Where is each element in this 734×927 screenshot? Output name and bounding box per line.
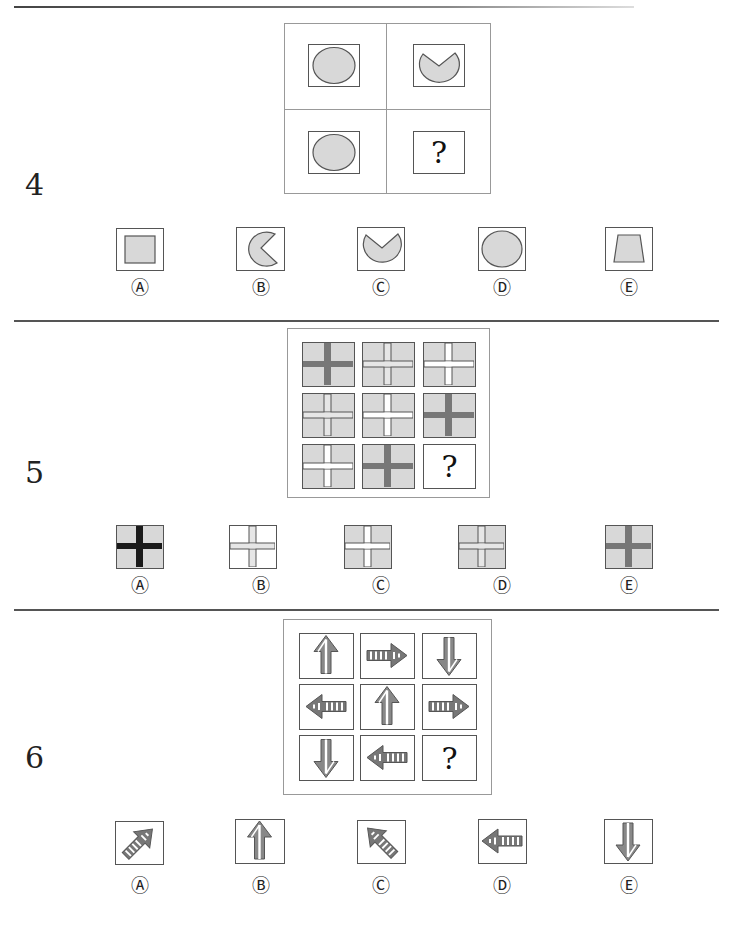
question-number: 5: [25, 455, 44, 490]
circle-icon: [309, 45, 359, 86]
option-label-e: Ⓔ: [617, 276, 641, 300]
circle-icon: [479, 228, 525, 270]
question-number: 6: [25, 740, 44, 775]
matrix-cell-arrow-right: [360, 633, 415, 679]
question-mark: ?: [414, 132, 464, 173]
matrix-cell-cross-light: [302, 393, 355, 438]
option-label-c: Ⓒ: [369, 276, 393, 300]
arrow-left-icon: [479, 820, 525, 862]
matrix-cell-cross-dark: [302, 342, 355, 387]
notched-circle-icon: [414, 45, 464, 86]
arrow-down-icon: [423, 634, 475, 677]
option-4a[interactable]: [116, 228, 164, 271]
option-4e[interactable]: [605, 227, 653, 271]
matrix-cell-arrow-left: [299, 684, 354, 730]
question-6-matrix: ?: [283, 619, 492, 795]
arrow-left-icon: [300, 685, 352, 728]
cross-icon: [424, 394, 474, 436]
notched-circle-icon: [358, 228, 404, 270]
circle-icon: [309, 132, 359, 173]
cross-icon: [363, 343, 413, 385]
option-6a[interactable]: [115, 821, 164, 865]
cross-icon: [363, 445, 413, 487]
section-divider-top: [14, 6, 634, 8]
cross-icon: [459, 526, 504, 567]
option-6b[interactable]: [235, 819, 285, 864]
matrix-cell-cross-white: [423, 342, 476, 387]
option-label-a: Ⓐ: [128, 574, 152, 598]
option-label-b: Ⓑ: [249, 574, 273, 598]
option-label-a: Ⓐ: [128, 874, 152, 898]
cross-icon: [303, 343, 353, 385]
option-4c[interactable]: [357, 227, 405, 271]
option-label-d: Ⓓ: [490, 874, 514, 898]
matrix-cell-missing: ?: [422, 735, 477, 781]
arrow-down-icon: [605, 820, 651, 862]
matrix-cell-circle: [308, 44, 360, 87]
matrix-cell-arrow-right: [422, 684, 477, 730]
arrow-down-icon: [300, 736, 352, 779]
option-6e[interactable]: [604, 819, 653, 864]
arrow-right-icon: [423, 685, 475, 728]
option-4b[interactable]: [236, 227, 285, 271]
option-label-a: Ⓐ: [128, 276, 152, 300]
arrow-up-icon: [361, 685, 413, 728]
option-5a[interactable]: [116, 525, 164, 569]
option-label-b: Ⓑ: [249, 276, 273, 300]
cross-icon: [117, 526, 162, 567]
option-label-d: Ⓓ: [490, 574, 514, 598]
option-4d[interactable]: [478, 227, 526, 271]
option-5c[interactable]: [344, 525, 392, 569]
question-mark: ?: [423, 736, 476, 780]
arrow-up-left-icon: [358, 821, 404, 862]
option-5d[interactable]: [458, 525, 506, 569]
question-5-matrix: ?: [287, 328, 490, 498]
option-label-e: Ⓔ: [617, 874, 641, 898]
option-6d[interactable]: [478, 819, 527, 864]
cross-icon: [303, 445, 353, 487]
cross-icon: [230, 526, 275, 567]
matrix-cell-arrow-up: [360, 684, 415, 730]
cross-icon: [424, 343, 474, 385]
arrow-up-right-icon: [116, 822, 162, 863]
cross-icon: [345, 526, 390, 567]
option-label-e: Ⓔ: [617, 574, 641, 598]
matrix-cell-arrow-left: [360, 735, 415, 781]
matrix-cell-notched-circle: [413, 44, 465, 87]
section-divider-4-5: [14, 320, 719, 322]
matrix-cell-missing: ?: [423, 444, 476, 489]
matrix-cell-circle: [308, 131, 360, 174]
matrix-cell-cross-dark: [423, 393, 476, 438]
matrix-cell-missing: ?: [413, 131, 465, 174]
option-6c[interactable]: [357, 820, 406, 864]
question-4-matrix: ?: [284, 23, 491, 194]
option-label-c: Ⓒ: [369, 574, 393, 598]
option-label-d: Ⓓ: [490, 276, 514, 300]
cross-icon: [303, 394, 353, 436]
square-icon: [117, 229, 163, 270]
matrix-cell-cross-light: [362, 342, 415, 387]
section-divider-5-6: [14, 609, 719, 611]
arrow-right-icon: [361, 634, 413, 677]
question-number: 4: [25, 167, 44, 202]
matrix-divider-h: [285, 109, 490, 110]
option-label-b: Ⓑ: [249, 874, 273, 898]
arrow-left-icon: [361, 736, 413, 779]
matrix-cell-cross-dark: [362, 444, 415, 489]
option-label-c: Ⓒ: [369, 874, 393, 898]
cross-icon: [606, 526, 651, 567]
matrix-cell-arrow-down: [422, 633, 477, 679]
matrix-cell-cross-white: [362, 393, 415, 438]
question-mark: ?: [424, 445, 475, 488]
arrow-up-icon: [300, 634, 352, 677]
arrow-up-icon: [236, 820, 283, 862]
matrix-cell-arrow-down: [299, 735, 354, 781]
pacman-icon: [237, 228, 284, 270]
trapezoid-icon: [606, 228, 652, 270]
option-5b[interactable]: [229, 525, 277, 569]
cross-icon: [363, 394, 413, 436]
matrix-cell-arrow-up: [299, 633, 354, 679]
matrix-cell-cross-white: [302, 444, 355, 489]
option-5e[interactable]: [605, 525, 653, 569]
